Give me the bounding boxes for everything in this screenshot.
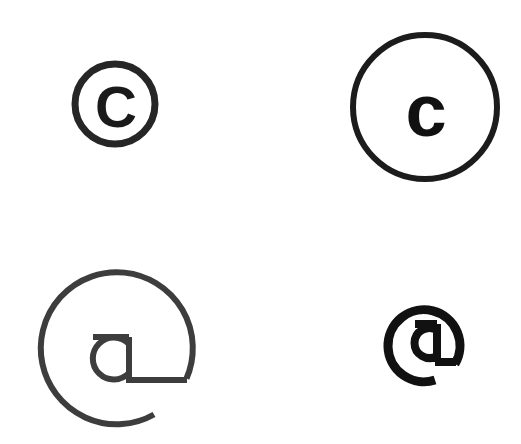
at-large-inner-a-bowl <box>93 337 129 380</box>
at-symbol-large: a <box>34 262 206 434</box>
at-large-outer-ring <box>41 272 193 424</box>
copyright-small-letter: C <box>95 74 137 139</box>
copyright-symbol-large: c <box>348 30 504 186</box>
at-small-inner-a-bowl <box>415 324 437 362</box>
copyright-symbol-small: C <box>71 58 161 150</box>
copyright-large-letter: c <box>405 69 446 152</box>
at-symbol-small: @ <box>383 298 479 396</box>
symbol-canvas: C c a <box>0 0 521 444</box>
